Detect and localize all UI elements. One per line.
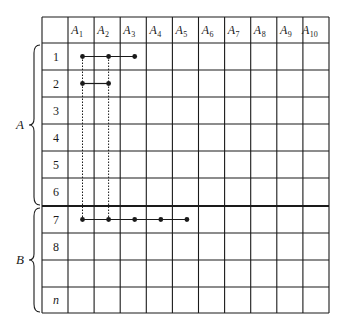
- node-dot: [80, 217, 85, 222]
- node-dot: [106, 81, 111, 86]
- column-header-A2: A2: [96, 23, 109, 39]
- node-dot: [132, 217, 137, 222]
- row-label-8: 8: [53, 240, 59, 254]
- column-header-subscript: 2: [105, 30, 109, 39]
- row-label-4: 4: [53, 131, 59, 145]
- column-header-A10: A10: [301, 23, 318, 39]
- row-label-5: 5: [53, 158, 59, 172]
- node-dot: [185, 217, 190, 222]
- column-header-subscript: 8: [262, 30, 266, 39]
- node-dot: [106, 54, 111, 59]
- node-dot: [80, 54, 85, 59]
- row-label-2: 2: [53, 77, 59, 91]
- column-header-subscript: 10: [310, 30, 318, 39]
- group-braces: AB: [15, 45, 40, 312]
- node-dot: [158, 217, 163, 222]
- row-label-1: 1: [53, 50, 59, 64]
- column-header-A3: A3: [122, 23, 135, 39]
- matrix-diagram: A1A2A3A4A5A6A7A8A9A10 12345678n AB: [0, 0, 341, 325]
- column-header-A5: A5: [175, 23, 188, 39]
- column-header-subscript: 3: [131, 30, 135, 39]
- group-label-A: A: [15, 117, 24, 132]
- node-dot: [106, 217, 111, 222]
- group-brace-A: [29, 45, 40, 205]
- column-header-A1: A1: [70, 23, 83, 39]
- node-dot: [80, 81, 85, 86]
- column-header-A8: A8: [253, 23, 266, 39]
- column-header-A9: A9: [279, 23, 292, 39]
- column-header-A7: A7: [227, 23, 240, 39]
- dotted-links: [83, 57, 109, 220]
- group-label-B: B: [16, 252, 24, 267]
- node-dot: [132, 54, 137, 59]
- column-header-subscript: 7: [236, 30, 240, 39]
- column-header-A4: A4: [148, 23, 161, 39]
- column-header-subscript: 4: [157, 30, 161, 39]
- column-header-subscript: 9: [288, 30, 292, 39]
- row-label-3: 3: [53, 104, 59, 118]
- column-header-subscript: 1: [79, 30, 83, 39]
- group-brace-B: [29, 208, 40, 312]
- row-label-6: 6: [53, 185, 59, 199]
- row-label-n: n: [53, 293, 59, 307]
- grid-lines: [42, 17, 329, 313]
- row-label-7: 7: [53, 213, 59, 227]
- column-header-row: A1A2A3A4A5A6A7A8A9A10: [70, 23, 318, 39]
- column-header-subscript: 5: [183, 30, 187, 39]
- column-header-A6: A6: [201, 23, 214, 39]
- column-header-subscript: 6: [209, 30, 213, 39]
